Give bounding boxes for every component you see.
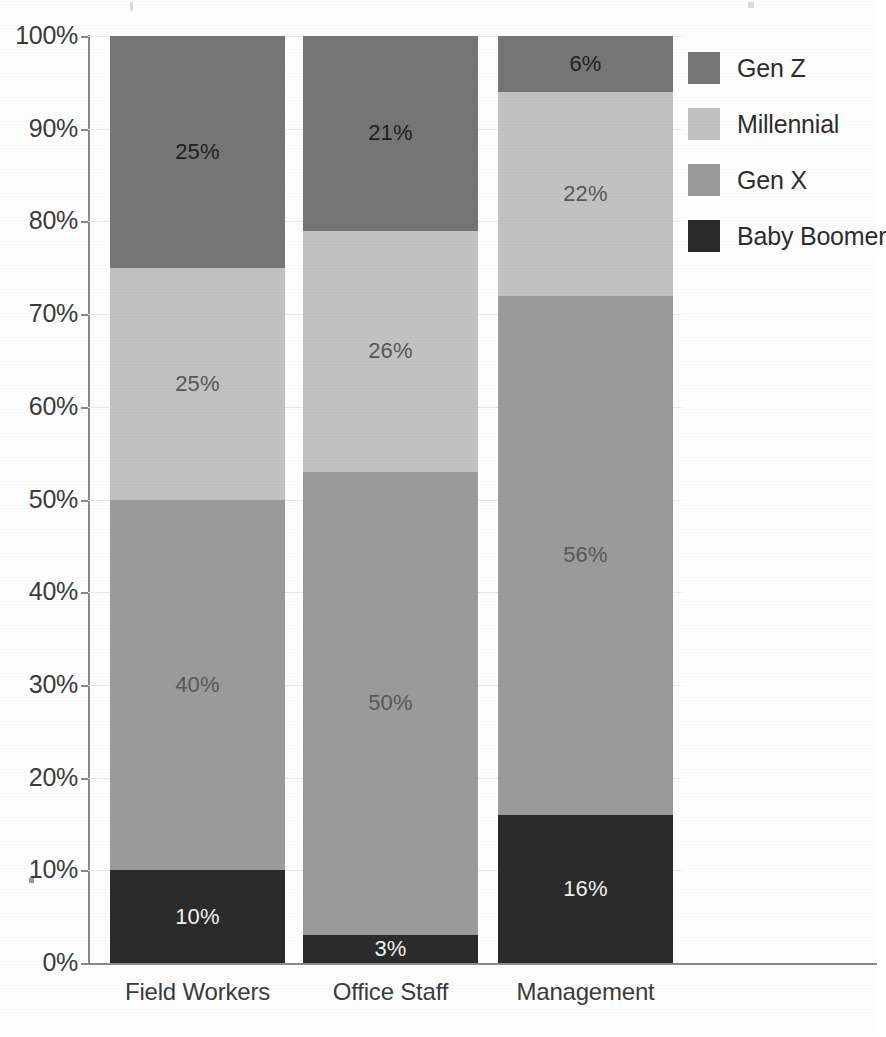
bar-segment-gen-x[interactable]: 40% bbox=[110, 500, 285, 871]
bar-segment-value-label: 56% bbox=[563, 544, 608, 566]
y-axis-tick-label: 100% bbox=[15, 23, 78, 48]
y-axis-tick bbox=[81, 407, 88, 409]
legend-item-label: Millennial bbox=[737, 110, 839, 139]
bar-segment-value-label: 22% bbox=[563, 183, 608, 205]
bar-segment-millennial[interactable]: 22% bbox=[498, 92, 673, 296]
legend-item-millennial[interactable]: Millennial bbox=[688, 96, 873, 152]
y-axis-tick bbox=[81, 500, 88, 502]
bar-segment-gen-z[interactable]: 21% bbox=[303, 36, 478, 231]
bar-segment-baby-boomer[interactable]: 10% bbox=[110, 870, 285, 963]
bar-segment-millennial[interactable]: 25% bbox=[110, 268, 285, 500]
chart-legend: Gen ZMillennialGen XBaby Boomer bbox=[688, 40, 873, 264]
legend-swatch-icon bbox=[688, 108, 720, 140]
legend-item-baby-boomer[interactable]: Baby Boomer bbox=[688, 208, 873, 264]
bar-segment-baby-boomer[interactable]: 16% bbox=[498, 815, 673, 963]
bar-segment-value-label: 16% bbox=[563, 878, 608, 900]
bar-segment-baby-boomer[interactable]: 3% bbox=[303, 935, 478, 963]
x-axis-label-field-workers: Field Workers bbox=[110, 978, 285, 1006]
y-axis-tick-label: 70% bbox=[29, 301, 78, 326]
bar-segment-gen-x[interactable]: 56% bbox=[498, 296, 673, 815]
scan-artifact bbox=[130, 2, 133, 11]
legend-item-gen-x[interactable]: Gen X bbox=[688, 152, 873, 208]
y-axis-tick-label: 50% bbox=[29, 487, 78, 512]
y-axis-tick-label: 30% bbox=[29, 672, 78, 697]
stacked-bar[interactable]: 25%25%40%10% bbox=[110, 36, 285, 963]
y-axis-tick bbox=[81, 592, 88, 594]
y-axis-tick bbox=[81, 778, 88, 780]
legend-item-gen-z[interactable]: Gen Z bbox=[688, 40, 873, 96]
bar-segment-gen-z[interactable]: 25% bbox=[110, 36, 285, 268]
legend-item-label: Gen X bbox=[737, 166, 807, 195]
bar-segment-value-label: 10% bbox=[175, 906, 220, 928]
y-axis-tick-label: 80% bbox=[29, 208, 78, 233]
y-axis-tick bbox=[81, 314, 88, 316]
y-axis-tick bbox=[81, 221, 88, 223]
gridline bbox=[88, 963, 681, 964]
legend-item-label: Gen Z bbox=[737, 54, 805, 83]
bar-segment-value-label: 21% bbox=[368, 122, 413, 144]
scan-artifact bbox=[748, 2, 754, 8]
stacked-bar[interactable]: 6%22%56%16% bbox=[498, 36, 673, 963]
plot-area: 25%25%40%10%21%26%50%3%6%22%56%16% bbox=[88, 36, 681, 963]
y-axis-tick bbox=[81, 963, 88, 965]
legend-item-label: Baby Boomer bbox=[737, 222, 886, 251]
y-axis-tick-label: 10% bbox=[29, 857, 78, 882]
y-axis-tick bbox=[81, 36, 88, 38]
bar-segment-value-label: 40% bbox=[175, 674, 220, 696]
bar-segment-value-label: 26% bbox=[368, 340, 413, 362]
bar-segment-gen-x[interactable]: 50% bbox=[303, 472, 478, 936]
bar-segment-value-label: 25% bbox=[175, 373, 220, 395]
y-axis-tick-label: 40% bbox=[29, 579, 78, 604]
bar-segment-value-label: 6% bbox=[569, 53, 601, 75]
bar-segment-value-label: 50% bbox=[368, 692, 413, 714]
bar-segment-millennial[interactable]: 26% bbox=[303, 231, 478, 472]
bar-segment-gen-z[interactable]: 6% bbox=[498, 36, 673, 92]
legend-swatch-icon bbox=[688, 164, 720, 196]
y-axis-tick bbox=[81, 685, 88, 687]
legend-swatch-icon bbox=[688, 220, 720, 252]
x-axis-label-management: Management bbox=[498, 978, 673, 1006]
bar-segment-value-label: 3% bbox=[374, 938, 406, 960]
x-axis-label-office-staff: Office Staff bbox=[303, 978, 478, 1006]
y-axis-tick bbox=[81, 870, 88, 872]
bar-segment-value-label: 25% bbox=[175, 141, 220, 163]
y-axis-tick-label: 20% bbox=[29, 765, 78, 790]
y-axis-tick bbox=[81, 129, 88, 131]
stacked-bar[interactable]: 21%26%50%3% bbox=[303, 36, 478, 963]
legend-swatch-icon bbox=[688, 52, 720, 84]
y-axis-tick-label: 90% bbox=[29, 116, 78, 141]
y-axis-tick-label: 0% bbox=[42, 950, 78, 975]
y-axis-tick-label: 60% bbox=[29, 394, 78, 419]
